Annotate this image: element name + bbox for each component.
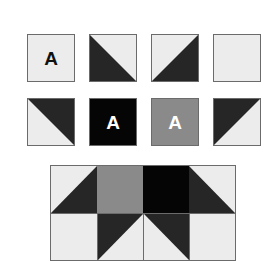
quilt-block — [50, 165, 236, 261]
tile-plain-light — [213, 34, 261, 82]
dark-triangle-icon — [98, 214, 143, 260]
block-cell-gray — [97, 166, 143, 213]
dark-triangle-icon — [152, 35, 198, 81]
dark-triangle-icon — [51, 166, 97, 213]
block-cell-half-square — [51, 166, 97, 213]
dark-triangle-icon — [189, 166, 235, 213]
tile-half-square-dark-bottom-left — [89, 34, 137, 82]
letter-a: A — [28, 35, 74, 81]
tile-gray-letter-a: A — [151, 98, 199, 146]
block-cell-half-square — [143, 213, 189, 260]
dark-triangle-icon — [28, 99, 74, 145]
tile-light-letter-a: A — [27, 34, 75, 82]
dark-triangle-icon — [144, 214, 189, 260]
block-cell-half-square — [97, 213, 143, 260]
block-cell-light — [189, 213, 235, 260]
block-cell-light — [51, 213, 97, 260]
tile-half-square-dark-bottom-right — [151, 34, 199, 82]
dark-triangle-icon — [90, 35, 136, 81]
dark-triangle-icon — [214, 99, 260, 145]
block-cell-half-square — [189, 166, 235, 213]
letter-a: A — [152, 99, 198, 145]
block-cell-black — [143, 166, 189, 213]
tile-black-letter-a: A — [89, 98, 137, 146]
letter-a: A — [90, 99, 136, 145]
tile-half-square-dark-top-left — [213, 98, 261, 146]
tile-half-square-dark-top-right — [27, 98, 75, 146]
